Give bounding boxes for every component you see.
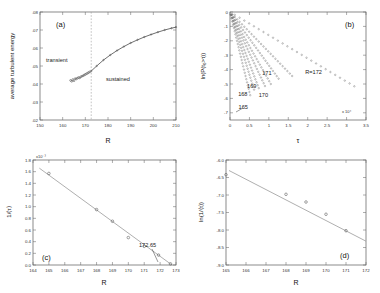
svg-text:0: 0 bbox=[226, 10, 229, 15]
svg-text:3: 3 bbox=[345, 123, 348, 128]
panel-c: 1641651661671681691701711721730.00.20.40… bbox=[0, 150, 190, 293]
svg-text:-6.5: -6.5 bbox=[216, 175, 224, 180]
panel-b-annot-3: 168 bbox=[238, 91, 247, 97]
svg-text:-9.0: -9.0 bbox=[216, 263, 224, 268]
panel-b-x-exponent: x 10⁴ bbox=[342, 109, 352, 114]
panel-b-annotations: 171R=172169168170165 bbox=[238, 69, 322, 110]
svg-text:169: 169 bbox=[302, 268, 310, 273]
svg-text:180: 180 bbox=[104, 123, 112, 128]
svg-text:1: 1 bbox=[268, 123, 271, 128]
svg-text:170: 170 bbox=[322, 268, 330, 273]
panel-c-label: (c) bbox=[42, 253, 51, 262]
svg-text:1.6: 1.6 bbox=[25, 169, 32, 174]
svg-text:-7.0: -7.0 bbox=[216, 193, 224, 198]
panel-b-annot-1: R=172 bbox=[305, 69, 322, 75]
svg-text:.02: .02 bbox=[32, 118, 39, 123]
panel-d-data bbox=[225, 171, 366, 242]
panel-a-annot-sustained: sustained bbox=[106, 76, 130, 82]
svg-text:172: 172 bbox=[156, 268, 164, 273]
panel-c-annot-critical: 172.65 bbox=[139, 242, 156, 248]
panel-b-ylabel: ln(P(t₀>τ)) bbox=[200, 53, 206, 80]
svg-text:.06: .06 bbox=[32, 46, 39, 51]
svg-text:-6: -6 bbox=[224, 96, 228, 101]
panel-a-data bbox=[70, 12, 177, 120]
svg-text:1.8: 1.8 bbox=[25, 158, 32, 163]
figure-root: 150160170180190200210.02.03.04.05.06.07.… bbox=[0, 0, 380, 293]
svg-text:164: 164 bbox=[29, 268, 37, 273]
svg-text:1.4: 1.4 bbox=[25, 181, 32, 186]
svg-text:170: 170 bbox=[125, 268, 133, 273]
panel-b-label: (b) bbox=[345, 20, 355, 29]
svg-text:150: 150 bbox=[36, 123, 44, 128]
panel-b-annot-2: 169 bbox=[247, 83, 256, 89]
svg-text:170: 170 bbox=[82, 123, 90, 128]
svg-text:0.6: 0.6 bbox=[25, 228, 32, 233]
panel-c-ylabel: 1/⟨τ⟩ bbox=[6, 206, 12, 217]
svg-text:0.5: 0.5 bbox=[246, 123, 253, 128]
svg-text:0.2: 0.2 bbox=[25, 251, 32, 256]
panel-c-data bbox=[39, 168, 172, 265]
panel-a-ticks: 150160170180190200210.02.03.04.05.06.07.… bbox=[32, 10, 180, 128]
svg-text:190: 190 bbox=[127, 123, 135, 128]
svg-text:165: 165 bbox=[222, 268, 230, 273]
svg-text:171: 171 bbox=[141, 268, 149, 273]
svg-text:2: 2 bbox=[306, 123, 309, 128]
panel-a-ylabel: average turbulent energy bbox=[9, 33, 15, 100]
svg-text:-5: -5 bbox=[224, 82, 228, 87]
svg-text:-8.0: -8.0 bbox=[216, 228, 224, 233]
panel-a-annot-transient: transient bbox=[46, 57, 68, 63]
panel-c-y-exponent: x10⁻³ bbox=[36, 154, 46, 159]
svg-text:-4: -4 bbox=[224, 67, 228, 72]
svg-text:169: 169 bbox=[109, 268, 117, 273]
panel-c-xlabel: R bbox=[101, 279, 106, 286]
svg-text:.03: .03 bbox=[32, 100, 39, 105]
svg-text:-8.5: -8.5 bbox=[216, 245, 224, 250]
svg-text:-3: -3 bbox=[224, 53, 228, 58]
svg-text:.07: .07 bbox=[32, 28, 39, 33]
panel-b-xlabel: τ bbox=[297, 137, 300, 144]
svg-text:1.5: 1.5 bbox=[285, 123, 292, 128]
panel-d: 165166167168169170171172-6.0-6.5-7.0-7.5… bbox=[190, 150, 380, 293]
panel-b-annot-0: 171 bbox=[262, 70, 271, 76]
panel-a-xlabel: R bbox=[105, 137, 110, 144]
panel-a-plot-area: 150160170180190200210.02.03.04.05.06.07.… bbox=[32, 10, 180, 128]
svg-text:3.5: 3.5 bbox=[363, 123, 370, 128]
svg-text:2.5: 2.5 bbox=[324, 123, 331, 128]
svg-text:0.8: 0.8 bbox=[25, 216, 32, 221]
panel-d-label: (d) bbox=[340, 251, 350, 260]
svg-text:210: 210 bbox=[172, 123, 180, 128]
svg-text:-1: -1 bbox=[224, 24, 228, 29]
svg-text:.04: .04 bbox=[32, 82, 39, 87]
svg-text:166: 166 bbox=[242, 268, 250, 273]
panel-a-label: (a) bbox=[56, 20, 66, 29]
svg-text:-7: -7 bbox=[224, 110, 228, 115]
svg-text:168: 168 bbox=[93, 268, 101, 273]
svg-text:173: 173 bbox=[172, 268, 180, 273]
svg-text:.08: .08 bbox=[32, 10, 39, 15]
svg-text:.05: .05 bbox=[32, 64, 39, 69]
svg-text:160: 160 bbox=[59, 123, 67, 128]
svg-text:167: 167 bbox=[262, 268, 270, 273]
svg-text:200: 200 bbox=[150, 123, 158, 128]
svg-text:-2: -2 bbox=[224, 38, 228, 43]
svg-text:1.2: 1.2 bbox=[25, 193, 32, 198]
panel-a: 150160170180190200210.02.03.04.05.06.07.… bbox=[0, 0, 190, 150]
panel-d-xlabel: R bbox=[293, 279, 298, 286]
panel-b: 00.511.522.533.50-1-2-3-4-5-6-7 (b) τ ln… bbox=[190, 0, 380, 150]
panel-d-ylabel: ln(1/⟨τ⟩) bbox=[198, 202, 204, 222]
svg-text:167: 167 bbox=[77, 268, 85, 273]
svg-text:166: 166 bbox=[61, 268, 69, 273]
svg-text:-7.5: -7.5 bbox=[216, 210, 224, 215]
svg-text:1.0: 1.0 bbox=[25, 204, 32, 209]
panel-b-annot-4: 170 bbox=[259, 92, 268, 98]
svg-text:0.0: 0.0 bbox=[25, 263, 32, 268]
svg-text:0: 0 bbox=[229, 123, 232, 128]
svg-text:171: 171 bbox=[342, 268, 350, 273]
svg-text:165: 165 bbox=[45, 268, 53, 273]
svg-text:-6.0: -6.0 bbox=[216, 158, 224, 163]
svg-text:168: 168 bbox=[282, 268, 290, 273]
svg-text:172: 172 bbox=[362, 268, 370, 273]
svg-text:0.4: 0.4 bbox=[25, 239, 32, 244]
panel-b-annot-5: 165 bbox=[239, 104, 248, 110]
